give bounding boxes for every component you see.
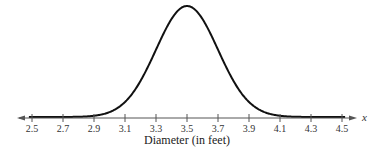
x-tick-label: 4.3 xyxy=(305,123,318,134)
x-tick-label: 3.1 xyxy=(119,123,132,134)
x-tick-label: 3.9 xyxy=(243,123,256,134)
x-tick-label: 2.9 xyxy=(88,123,101,134)
normal-curve-path xyxy=(29,6,345,117)
x-tick-label: 2.7 xyxy=(57,123,70,134)
x-variable-label: x xyxy=(361,111,367,123)
x-axis-title: Diameter (in feet) xyxy=(144,133,230,147)
normal-curve xyxy=(29,6,345,117)
x-tick-label: 2.5 xyxy=(26,123,39,134)
normal-distribution-chart: 2.52.72.93.13.33.53.73.94.14.34.5 x Diam… xyxy=(0,0,388,157)
x-tick-label: 4.1 xyxy=(274,123,287,134)
left-arrow-icon xyxy=(17,116,25,121)
right-arrow-icon xyxy=(349,116,357,121)
x-tick-label: 4.5 xyxy=(336,123,349,134)
